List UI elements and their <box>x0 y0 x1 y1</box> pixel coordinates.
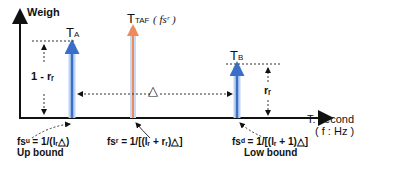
formula-mid: fsʳ = 1/[(lᵣ + rᵣ)△] <box>107 136 183 147</box>
peak-ttaf-label: TTAF ( fsʳ ) <box>127 11 176 26</box>
peak-tb-label: TB <box>230 48 243 63</box>
x-axis-label: T: second( f : Hz ) <box>307 113 354 137</box>
y-axis-label: Weigh <box>27 6 60 18</box>
formula-up: fsᵘ = 1/(lᵣ△)Up bound <box>17 136 69 158</box>
peak-ta-label: TA <box>66 25 79 40</box>
delta-label: △ <box>148 83 158 98</box>
formula-low: fsᵈ = 1/[(lᵣ + 1)△]Low bound <box>232 136 308 158</box>
height-label-right: rᵣ <box>264 84 271 96</box>
height-label-left: 1 - rᵣ <box>31 70 54 82</box>
